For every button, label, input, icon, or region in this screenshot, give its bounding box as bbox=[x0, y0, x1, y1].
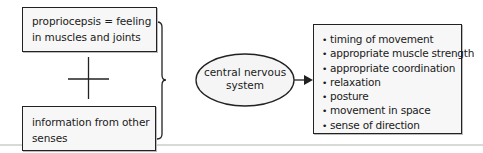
list-item-text: sense of direction bbox=[330, 119, 420, 131]
proprioception-text: proprioceps​is = feeling in muscles and … bbox=[32, 13, 156, 45]
list-item-text: appropriate muscle strength bbox=[330, 47, 474, 59]
other-senses-box: information from other senses bbox=[22, 106, 156, 151]
bullet-icon: • bbox=[322, 91, 330, 104]
list-item: •sense of direction bbox=[322, 119, 474, 133]
bracket-connector bbox=[157, 22, 166, 139]
other-senses-text: information from other senses bbox=[32, 114, 156, 146]
list-item-text: posture bbox=[330, 90, 368, 102]
bullet-icon: • bbox=[322, 34, 330, 47]
outcomes-box: •timing of movement •appropriate muscle … bbox=[313, 24, 462, 134]
list-item: •appropriate coordination bbox=[322, 62, 474, 76]
bullet-icon: • bbox=[322, 120, 330, 133]
list-item-text: relaxation bbox=[330, 76, 381, 88]
bullet-icon: • bbox=[322, 105, 330, 118]
proprioception-box: proprioceps​is = feeling in muscles and … bbox=[22, 7, 157, 52]
list-item: •relaxation bbox=[322, 76, 474, 90]
plus-icon bbox=[68, 57, 109, 99]
arrow-icon bbox=[294, 75, 313, 85]
list-item: •posture bbox=[322, 90, 474, 104]
bullet-icon: • bbox=[322, 48, 330, 61]
list-item: •movement in space bbox=[322, 104, 474, 118]
outcomes-list: •timing of movement •appropriate muscle … bbox=[322, 33, 474, 133]
list-item-text: timing of movement bbox=[330, 33, 433, 45]
bullet-icon: • bbox=[322, 63, 330, 76]
list-item: •timing of movement bbox=[322, 33, 474, 47]
list-item-text: appropriate coordination bbox=[330, 62, 455, 74]
list-item-text: movement in space bbox=[330, 104, 430, 116]
list-item: •appropriate muscle strength bbox=[322, 47, 474, 61]
bullet-icon: • bbox=[322, 77, 330, 90]
cns-label: central nervous system bbox=[196, 66, 294, 92]
diagram: proprioceps​is = feeling in muscles and … bbox=[0, 0, 483, 153]
